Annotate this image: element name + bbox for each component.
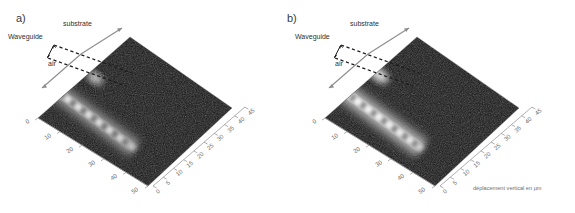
tick-label: 15 xyxy=(185,159,194,168)
tick-label: 0 xyxy=(155,188,162,195)
tick-label: 5 xyxy=(165,179,172,186)
figure-container: a) xyxy=(0,0,575,213)
tick-label: 20 xyxy=(352,145,361,154)
waveguide-label: Waveguide xyxy=(8,33,43,41)
tick-label: 10 xyxy=(330,132,339,141)
tick-label: 45 xyxy=(534,107,543,116)
panel-b-plot: 0 10 20 30 40 50 xyxy=(287,0,575,213)
intensity-map-a xyxy=(27,37,232,186)
substrate-arrow-head xyxy=(117,28,122,32)
tick-label: 25 xyxy=(206,142,215,151)
air-label: air xyxy=(48,60,56,67)
tick-label: 40 xyxy=(396,172,405,181)
substrate-label: substrate xyxy=(63,20,92,27)
tick-label: 0 xyxy=(311,118,318,125)
tick-label: 30 xyxy=(216,133,225,142)
tick-label: 35 xyxy=(513,124,522,133)
bracket-arrow-bottom xyxy=(335,55,337,58)
tick-label: 10 xyxy=(462,168,471,177)
tick-label: 30 xyxy=(87,159,96,168)
tick-label: 20 xyxy=(196,150,205,159)
panel-b: b) xyxy=(287,0,575,213)
tick-label: 5 xyxy=(452,179,459,186)
tick-label: 40 xyxy=(237,115,246,124)
tick-label: 40 xyxy=(109,172,118,181)
tick-label: 50 xyxy=(417,186,426,195)
tick-label: 45 xyxy=(247,107,256,116)
tick-label: 10 xyxy=(43,132,52,141)
tick-label: 0 xyxy=(24,118,31,125)
substrate-arrow-head xyxy=(404,28,409,32)
panel-a: a) xyxy=(0,0,288,213)
tick-label: 15 xyxy=(472,159,481,168)
tick-label: 20 xyxy=(65,145,74,154)
tick-label: 40 xyxy=(524,115,533,124)
tick-label: 0 xyxy=(442,188,449,195)
tick-label: 20 xyxy=(483,150,492,159)
tick-label: 50 xyxy=(130,186,139,195)
tick-label: 25 xyxy=(493,142,502,151)
intensity-map-b xyxy=(314,37,519,186)
tick-label: 30 xyxy=(374,159,383,168)
substrate-label: substrate xyxy=(350,20,379,27)
air-label: air xyxy=(335,60,343,67)
waveguide-label: Waveguide xyxy=(295,33,330,41)
tick-label: 10 xyxy=(175,168,184,177)
tick-label: 30 xyxy=(503,133,512,142)
bracket-arrow-bottom xyxy=(48,55,50,58)
tick-label: 35 xyxy=(226,124,235,133)
vertical-displacement-axis-title: déplacement vertical en µm xyxy=(473,185,542,191)
panel-a-plot: 0 10 20 30 40 50 xyxy=(0,0,288,213)
